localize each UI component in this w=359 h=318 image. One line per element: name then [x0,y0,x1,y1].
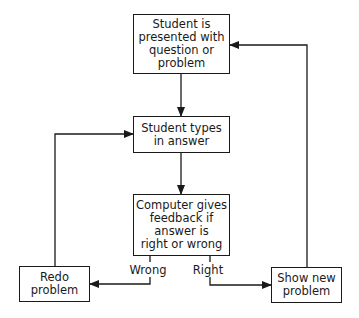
node-show-new-problem: Show new problem [271,267,342,303]
edge-label-right: Right [192,263,224,277]
arrow-right-to-shownew [210,276,271,285]
node-student-types: Student types in answer [133,116,230,153]
node-student-types-label: Student types in answer [141,122,222,148]
arrow-redo-to-types [55,134,133,266]
node-present-question-label: Student is presented with question or pr… [138,18,224,70]
arrow-shownew-to-present [230,45,307,267]
node-redo-problem: Redo problem [19,266,90,302]
edge-label-wrong: Wrong [129,263,168,277]
node-show-new-problem-label: Show new problem [277,272,335,298]
node-present-question: Student is presented with question or pr… [133,14,230,74]
node-computer-feedback-label: Computer gives feedback if answer is rig… [136,199,227,251]
arrow-wrong-to-redo [90,276,150,284]
flowchart: Student is presented with question or pr… [0,0,359,318]
node-computer-feedback: Computer gives feedback if answer is rig… [133,194,230,256]
node-redo-problem-label: Redo problem [31,271,79,297]
